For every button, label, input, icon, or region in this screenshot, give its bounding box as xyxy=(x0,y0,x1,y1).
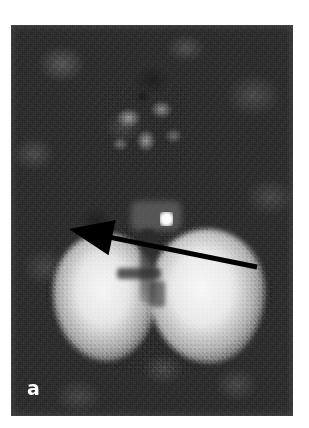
figure-root: a xyxy=(0,0,309,428)
background-noise-field xyxy=(11,25,293,416)
panel-label: a xyxy=(27,379,40,398)
scan-image-plate: a xyxy=(11,25,293,416)
